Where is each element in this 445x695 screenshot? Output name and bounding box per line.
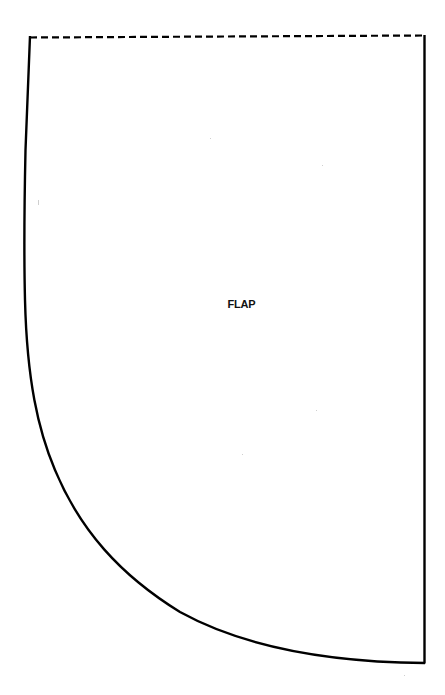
scan-speck [322,165,323,166]
curved-edge [24,36,425,663]
scan-speck [210,138,211,139]
scan-speck [38,200,39,205]
fold-line-top [30,36,424,38]
scan-speck [404,675,405,676]
scan-speck [316,410,317,411]
piece-label: FLAP [0,298,445,310]
scan-speck [242,454,243,455]
pattern-piece-outline [0,0,445,695]
